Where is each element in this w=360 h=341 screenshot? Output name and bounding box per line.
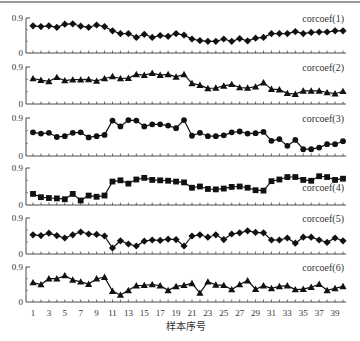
diamond-marker: [308, 234, 315, 241]
circle-marker: [125, 117, 131, 123]
x-tick-label: 31: [267, 308, 276, 318]
square-marker: [189, 185, 195, 191]
panel-1: 0.90corcoef(1): [12, 13, 347, 58]
square-marker: [292, 174, 298, 180]
square-marker: [316, 173, 322, 179]
triangle-marker: [133, 71, 140, 77]
diamond-marker: [165, 33, 172, 40]
square-marker: [340, 176, 346, 182]
diamond-marker: [236, 35, 243, 42]
diamond-marker: [45, 22, 52, 29]
x-tick-label: 9: [94, 308, 99, 318]
diamond-marker: [324, 239, 331, 246]
circle-marker: [269, 138, 275, 144]
square-marker: [86, 193, 92, 199]
y-tick-label-max: 0.9: [12, 262, 24, 272]
circle-marker: [308, 146, 314, 152]
circle-marker: [62, 133, 68, 139]
triangle-marker: [29, 75, 36, 81]
triangle-marker: [339, 283, 346, 289]
x-tick-label: 35: [299, 308, 309, 318]
triangle-marker: [125, 287, 132, 293]
diamond-marker: [101, 23, 108, 30]
x-tick-label: 13: [124, 308, 134, 318]
circle-marker: [54, 134, 60, 140]
triangle-marker: [228, 286, 235, 292]
x-tick-label: 29: [251, 308, 261, 318]
circle-marker: [197, 130, 203, 136]
circle-marker: [70, 130, 76, 136]
triangle-marker: [53, 74, 60, 80]
diamond-marker: [300, 30, 307, 37]
diamond-marker: [101, 232, 108, 239]
diamond-marker: [228, 38, 235, 45]
panel-4: 0.90corcoef(4): [12, 163, 346, 210]
circle-marker: [181, 117, 187, 123]
diamond-marker: [29, 22, 36, 29]
square-marker: [125, 181, 131, 187]
square-marker: [277, 177, 283, 183]
square-marker: [165, 178, 171, 184]
diamond-marker: [69, 231, 76, 238]
y-tick-label-zero: 0: [19, 249, 24, 259]
y-tick-label-max: 0.9: [12, 213, 24, 223]
triangle-marker: [61, 272, 68, 278]
diamond-marker: [149, 34, 156, 41]
circle-marker: [46, 130, 52, 136]
square-marker: [54, 196, 60, 202]
diamond-marker: [165, 236, 172, 243]
diamond-marker: [260, 34, 267, 41]
circle-marker: [292, 137, 298, 143]
chart-panels: 0.90corcoef(1)0.90corcoef(2)0.90corcoef(…: [12, 13, 347, 307]
y-tick-label-zero: 0: [19, 200, 24, 210]
diamond-marker: [53, 232, 60, 239]
diamond-marker: [316, 28, 323, 35]
x-tick-label: 15: [140, 308, 150, 318]
triangle-marker: [117, 291, 124, 297]
diamond-marker: [339, 237, 346, 244]
x-axis-label: 样本序号: [166, 320, 206, 332]
diamond-marker: [93, 21, 100, 28]
x-tick-label: 39: [331, 308, 341, 318]
diamond-marker: [77, 23, 84, 30]
square-marker: [149, 177, 155, 183]
x-tick-label: 33: [283, 308, 293, 318]
diamond-marker: [196, 231, 203, 238]
triangle-marker: [188, 280, 195, 286]
square-marker: [324, 174, 330, 180]
diamond-marker: [339, 27, 346, 34]
diamond-marker: [284, 234, 291, 241]
series-legend-label: corcoef(1): [302, 13, 344, 25]
circle-marker: [94, 133, 100, 139]
circle-marker: [149, 121, 155, 127]
diamond-marker: [196, 37, 203, 44]
triangle-marker: [204, 278, 211, 284]
circle-marker: [324, 141, 330, 147]
diamond-marker: [188, 35, 195, 42]
diamond-marker: [141, 31, 148, 38]
circle-marker: [213, 133, 219, 139]
y-tick-label-zero: 0: [19, 48, 24, 58]
circle-marker: [38, 131, 44, 137]
square-marker: [30, 191, 36, 197]
triangle-marker: [260, 79, 267, 85]
diamond-marker: [252, 35, 259, 42]
diamond-marker: [37, 23, 44, 30]
diamond-marker: [220, 35, 227, 42]
diamond-marker: [133, 242, 140, 249]
diamond-marker: [308, 29, 315, 36]
circle-marker: [229, 129, 235, 135]
diamond-marker: [85, 24, 92, 31]
triangle-marker: [252, 83, 259, 89]
diamond-marker: [85, 230, 92, 237]
square-marker: [46, 195, 52, 201]
square-marker: [78, 198, 84, 204]
square-marker: [229, 184, 235, 190]
square-marker: [181, 179, 187, 185]
triangle-marker: [149, 70, 156, 76]
diamond-marker: [212, 231, 219, 238]
diamond-marker: [133, 34, 140, 41]
diamond-marker: [117, 30, 124, 37]
square-marker: [70, 191, 76, 197]
circle-marker: [340, 138, 346, 144]
